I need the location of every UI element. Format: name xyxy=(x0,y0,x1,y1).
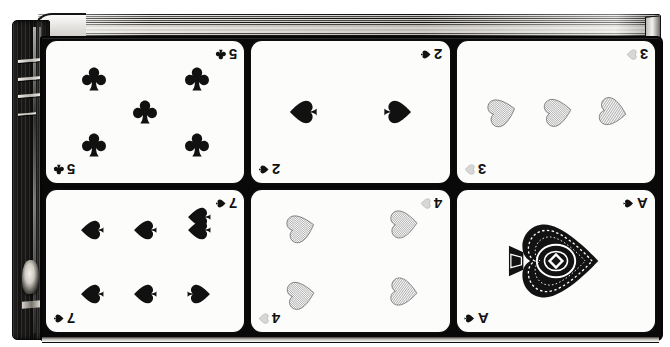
spade-icon xyxy=(132,281,158,307)
club-icon xyxy=(215,49,226,60)
spade-icon xyxy=(79,217,105,243)
spade-icon xyxy=(53,313,64,324)
club-icon xyxy=(184,132,210,158)
index-rank: 4 xyxy=(272,311,280,326)
corner-index-top-right: 4 xyxy=(420,196,442,211)
spade-icon xyxy=(258,164,269,175)
heart-icon xyxy=(420,198,431,209)
corner-index-top-right: 5 xyxy=(215,47,237,62)
index-rank: 3 xyxy=(478,162,486,177)
index-rank: 5 xyxy=(229,47,237,62)
club-icon xyxy=(81,132,107,158)
club-icon xyxy=(132,99,158,125)
heart-icon xyxy=(387,275,421,309)
heart-icon xyxy=(626,49,637,60)
spade-icon xyxy=(215,198,226,209)
card-face: 3 3 xyxy=(457,41,655,183)
club-icon xyxy=(53,164,64,175)
card-face: 5 5 xyxy=(46,41,244,183)
index-rank: 7 xyxy=(67,311,75,326)
corner-index-top-right: 2 xyxy=(420,47,442,62)
corner-index-bottom-left: 3 xyxy=(464,162,486,177)
ace-of-spades-ornament-icon xyxy=(508,213,604,309)
corner-index-bottom-left: A xyxy=(464,311,489,326)
heart-icon xyxy=(595,94,631,130)
spade-icon xyxy=(383,97,414,128)
heart-icon xyxy=(387,207,421,241)
spade-icon xyxy=(186,281,212,307)
card-three-of-hearts[interactable]: 3 3 xyxy=(457,41,655,183)
spine-crest-ornament xyxy=(22,259,39,294)
heart-icon xyxy=(540,94,576,130)
card-face: 2 2 xyxy=(251,41,449,183)
index-rank: A xyxy=(637,196,648,211)
corner-index-bottom-left: 7 xyxy=(53,311,75,326)
corner-index-top-right: A xyxy=(623,196,648,211)
heart-icon xyxy=(258,313,269,324)
index-rank: 2 xyxy=(272,162,280,177)
card-four-of-hearts[interactable]: 4 4 xyxy=(251,190,449,332)
club-icon xyxy=(81,66,107,92)
card-seven-of-spades[interactable]: 7 7 xyxy=(46,190,244,332)
card-two-of-spades[interactable]: 2 2 xyxy=(251,41,449,183)
card-face: 7 7 xyxy=(46,190,244,332)
card-face: A A xyxy=(457,190,655,332)
index-rank: A xyxy=(478,311,489,326)
corner-index-bottom-left: 5 xyxy=(53,162,75,177)
spade-icon xyxy=(623,198,634,209)
index-rank: 7 xyxy=(229,196,237,211)
spade-icon xyxy=(287,97,318,128)
cover-bottom-edge xyxy=(42,337,659,343)
card-face: 4 4 xyxy=(251,190,449,332)
spade-icon xyxy=(420,49,431,60)
heart-icon xyxy=(282,209,320,247)
spade-icon xyxy=(79,281,105,307)
spade-icon xyxy=(464,313,475,324)
spine-crest-base xyxy=(22,300,41,309)
card-ace-of-spades[interactable]: A A xyxy=(457,190,655,332)
index-rank: 5 xyxy=(67,162,75,177)
index-rank: 4 xyxy=(434,196,442,211)
card-grid: 5 5 2 xyxy=(46,41,655,332)
book: 5 5 2 xyxy=(12,14,659,339)
heart-icon xyxy=(283,277,319,313)
spade-icon xyxy=(132,217,158,243)
index-rank: 2 xyxy=(434,47,442,62)
corner-index-bottom-left: 2 xyxy=(258,162,280,177)
spade-icon xyxy=(186,204,212,230)
corner-index-top-right: 3 xyxy=(626,47,648,62)
index-rank: 3 xyxy=(640,47,648,62)
club-icon xyxy=(184,66,210,92)
heart-icon xyxy=(483,93,521,131)
corner-index-bottom-left: 4 xyxy=(258,311,280,326)
corner-index-top-right: 7 xyxy=(215,196,237,211)
card-five-of-clubs[interactable]: 5 5 xyxy=(46,41,244,183)
heart-icon xyxy=(464,164,475,175)
illustration-scene: 5 5 2 xyxy=(0,0,670,347)
